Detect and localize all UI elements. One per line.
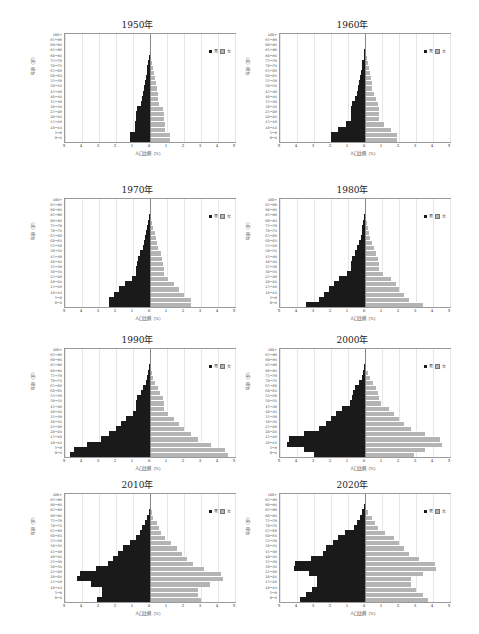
y-tick-label: 15～19 bbox=[265, 435, 277, 439]
bar-female bbox=[365, 132, 397, 137]
y-tick-labels: 0～45～910～1415～1920～2425～2930～3435～3940～4… bbox=[40, 348, 62, 456]
bar-male bbox=[351, 106, 365, 111]
x-tick-label: 2 bbox=[329, 603, 332, 608]
x-tick-label: 5 bbox=[233, 458, 236, 463]
y-tick-label: 90～94 bbox=[265, 503, 277, 507]
bar-male bbox=[319, 297, 365, 302]
bar-female bbox=[365, 576, 411, 581]
bar-male bbox=[346, 121, 365, 126]
y-tick-label: 95～99 bbox=[265, 38, 277, 42]
bar-male bbox=[329, 286, 365, 291]
gridline bbox=[314, 34, 315, 142]
gridline bbox=[314, 199, 315, 307]
y-tick-label: 90～94 bbox=[265, 208, 277, 212]
y-tick-label: 15～19 bbox=[265, 580, 277, 584]
x-tick-label: 2 bbox=[397, 458, 400, 463]
y-tick-label: 5～9 bbox=[55, 446, 62, 450]
bar-male bbox=[306, 592, 366, 597]
gridline bbox=[450, 199, 451, 307]
y-tick-label: 65～69 bbox=[50, 69, 62, 73]
x-tick-label: 3 bbox=[414, 458, 417, 463]
y-tick-label: 40～44 bbox=[50, 260, 62, 264]
y-tick-label: 0～4 bbox=[270, 136, 277, 140]
gridline bbox=[201, 199, 202, 307]
bar-male bbox=[136, 400, 150, 405]
x-axis-title: 人口比例（%） bbox=[279, 315, 449, 321]
bar-female bbox=[365, 245, 374, 250]
y-tick-label: 65～69 bbox=[265, 234, 277, 238]
bar-female bbox=[150, 261, 163, 266]
y-tick-label: 100+ bbox=[268, 198, 277, 202]
bar-female bbox=[365, 431, 425, 436]
bar-male bbox=[143, 245, 150, 250]
legend: 男女 bbox=[209, 213, 231, 219]
x-tick-label: 1 bbox=[380, 603, 383, 608]
x-tick-label: 0 bbox=[148, 143, 151, 148]
bar-female bbox=[150, 271, 164, 276]
y-tick-label: 45～49 bbox=[50, 255, 62, 259]
x-tick-label: 5 bbox=[448, 143, 451, 148]
bar-male bbox=[342, 406, 365, 411]
x-tick-label: 2 bbox=[182, 308, 185, 313]
x-tick-label: 5 bbox=[63, 603, 66, 608]
bar-female bbox=[150, 111, 164, 116]
y-tick-label: 85～89 bbox=[265, 508, 277, 512]
legend-label-female: 女 bbox=[227, 213, 231, 219]
bar-female bbox=[365, 421, 404, 426]
gridline bbox=[280, 349, 281, 457]
bar-male bbox=[333, 540, 365, 545]
chart-title: 2020年 bbox=[245, 480, 460, 491]
bar-female bbox=[365, 411, 394, 416]
x-tick-label: 4 bbox=[80, 603, 83, 608]
x-tick-label: 3 bbox=[312, 458, 315, 463]
bar-female bbox=[150, 431, 191, 436]
y-tick-label: 30～34 bbox=[265, 565, 277, 569]
gridline bbox=[416, 34, 417, 142]
gridline bbox=[297, 494, 298, 602]
y-tick-label: 70～74 bbox=[265, 229, 277, 233]
bar-male bbox=[304, 431, 365, 436]
y-tick-label: 30～34 bbox=[50, 420, 62, 424]
legend-swatch-female bbox=[220, 364, 225, 369]
y-tick-label: 20～24 bbox=[265, 280, 277, 284]
bar-female bbox=[150, 581, 210, 586]
y-tick-label: 5～9 bbox=[55, 131, 62, 135]
bar-female bbox=[365, 271, 383, 276]
bar-male bbox=[116, 426, 150, 431]
y-tick-label: 55～59 bbox=[265, 244, 277, 248]
bar-male bbox=[140, 250, 150, 255]
y-tick-label: 20～24 bbox=[50, 430, 62, 434]
bar-male bbox=[323, 551, 366, 556]
gridline bbox=[184, 34, 185, 142]
bar-male bbox=[357, 91, 366, 96]
x-tick-label: 1 bbox=[346, 308, 349, 313]
bar-female bbox=[365, 266, 379, 271]
y-tick-label: 70～74 bbox=[50, 229, 62, 233]
bar-male bbox=[141, 101, 150, 106]
gridline bbox=[235, 494, 236, 602]
x-tick-label: 2 bbox=[114, 603, 117, 608]
bar-female bbox=[365, 256, 378, 261]
bar-female bbox=[365, 587, 416, 592]
bar-female bbox=[150, 91, 158, 96]
bar-female bbox=[365, 426, 411, 431]
y-tick-label: 85～89 bbox=[265, 213, 277, 217]
y-tick-label: 75～79 bbox=[50, 374, 62, 378]
population-pyramid: 1990年0～45～910～1415～1920～2425～2930～3435～3… bbox=[30, 335, 245, 485]
population-pyramid: 2020年0～45～910～1415～1920～2425～2930～3435～3… bbox=[245, 480, 460, 630]
x-tick-label: 3 bbox=[414, 603, 417, 608]
bar-male bbox=[352, 395, 365, 400]
y-tick-label: 10～14 bbox=[50, 441, 62, 445]
bar-female bbox=[150, 452, 228, 457]
bar-female bbox=[365, 545, 404, 550]
x-tick-label: 4 bbox=[295, 308, 298, 313]
y-tick-label: 15～19 bbox=[50, 580, 62, 584]
y-tick-label: 70～74 bbox=[265, 64, 277, 68]
x-tick-labels: 54321012345 bbox=[64, 143, 234, 149]
x-tick-labels: 54321012345 bbox=[64, 308, 234, 314]
x-tick-label: 3 bbox=[97, 143, 100, 148]
bar-male bbox=[319, 426, 365, 431]
bar-male bbox=[133, 411, 150, 416]
legend-label-male: 男 bbox=[214, 213, 218, 219]
y-tick-label: 5～9 bbox=[55, 591, 62, 595]
